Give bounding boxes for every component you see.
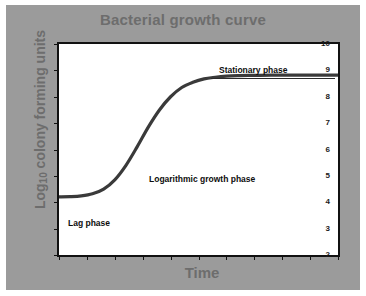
y-tick-mark [54, 229, 59, 230]
plot-frame: Stationary phase Logarithmic growth phas… [57, 42, 340, 257]
y-tick-label: 9 [326, 66, 330, 74]
y-tick-mark [54, 70, 59, 71]
x-tick-mark [115, 255, 116, 260]
annotation-logarithmic-growth-phase: Logarithmic growth phase [149, 175, 255, 184]
plot-area: Stationary phase Logarithmic growth phas… [59, 44, 338, 255]
annotation-lag-phase: Lag phase [68, 219, 110, 228]
y-tick-mark [54, 150, 59, 151]
y-tick-mark [54, 202, 59, 203]
y-tick-mark [54, 123, 59, 124]
stationary-phase-underline [211, 78, 335, 79]
y-tick-mark [54, 44, 59, 45]
y-tick-label: 2 [326, 251, 330, 259]
y-tick-label: 4 [326, 198, 330, 206]
y-tick-label: 7 [326, 119, 330, 127]
y-tick-label: 6 [326, 146, 330, 154]
x-tick-mark [282, 255, 283, 260]
y-axis-label-suffix: colony forming units [32, 30, 48, 172]
y-tick-label: 5 [326, 172, 330, 180]
y-tick-label: 8 [326, 93, 330, 101]
y-tick-mark [54, 176, 59, 177]
y-tick-label: 3 [326, 225, 330, 233]
x-tick-mark [310, 255, 311, 260]
annotation-stationary-phase: Stationary phase [219, 66, 288, 75]
x-tick-mark [143, 255, 144, 260]
x-tick-mark [254, 255, 255, 260]
x-axis-label: Time [57, 264, 347, 281]
bacterial-growth-curve-figure: Bacterial growth curve Log10 colony form… [0, 0, 366, 296]
y-axis-label: Log10 colony forming units [32, 20, 49, 220]
y-axis-label-prefix: Log [32, 183, 48, 209]
x-tick-mark [199, 255, 200, 260]
x-tick-mark [226, 255, 227, 260]
x-tick-mark [87, 255, 88, 260]
y-tick-mark [54, 97, 59, 98]
figure-panel: Bacterial growth curve Log10 colony form… [6, 5, 360, 290]
y-tick-label: 10 [321, 40, 330, 48]
y-axis-label-subscript: 10 [38, 172, 49, 183]
chart-title: Bacterial growth curve [6, 11, 360, 28]
x-tick-mark [171, 255, 172, 260]
x-tick-mark [59, 255, 60, 260]
x-tick-mark [338, 255, 339, 260]
